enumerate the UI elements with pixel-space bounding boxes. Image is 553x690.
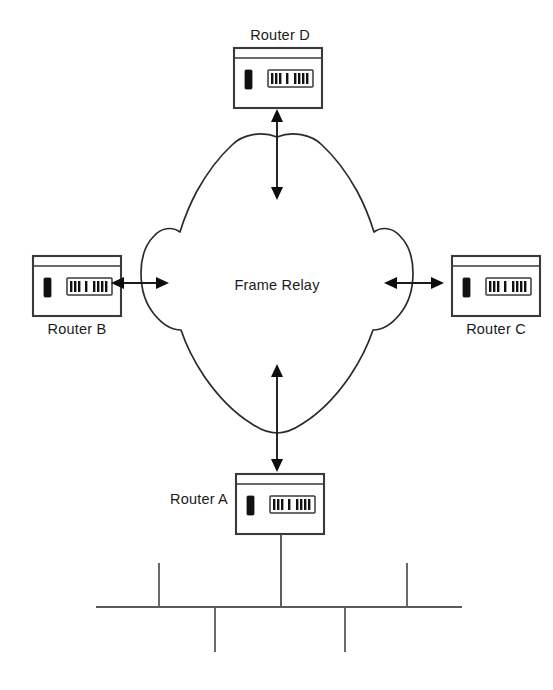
cloud-label: Frame Relay bbox=[234, 277, 320, 293]
router-d-panel bbox=[268, 70, 313, 87]
arrow-head-down bbox=[271, 459, 283, 472]
router-b-panel bbox=[67, 278, 112, 295]
router-c-node[interactable]: Router C bbox=[452, 256, 540, 337]
arrow-head-right bbox=[431, 277, 444, 289]
router-a-node[interactable]: Router A bbox=[170, 474, 324, 534]
router-b-label: Router B bbox=[48, 321, 107, 337]
router-a-icon bbox=[236, 474, 324, 534]
lan-bus bbox=[96, 563, 462, 652]
network-diagram-canvas: Frame Relay Router D bbox=[0, 0, 553, 690]
router-d-label: Router D bbox=[250, 27, 310, 43]
router-a-panel bbox=[270, 496, 315, 513]
router-c-panel bbox=[486, 278, 531, 295]
router-b-icon bbox=[33, 256, 121, 316]
router-a-label: Router A bbox=[170, 491, 228, 507]
router-b-node[interactable]: Router B bbox=[33, 256, 121, 337]
router-d-icon bbox=[234, 48, 322, 108]
arrow-head-up bbox=[271, 109, 283, 122]
router-d-node[interactable]: Router D bbox=[234, 27, 322, 108]
network-diagram: Frame Relay Router D bbox=[0, 0, 553, 690]
router-c-label: Router C bbox=[466, 321, 526, 337]
router-c-icon bbox=[452, 256, 540, 316]
